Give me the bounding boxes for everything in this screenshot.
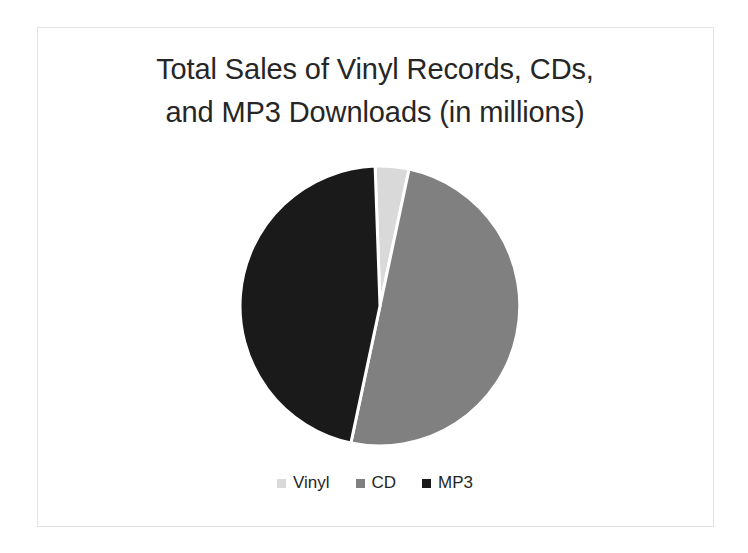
legend-swatch-mp3-icon — [422, 479, 431, 488]
slide-canvas: Total Sales of Vinyl Records, CDs, and M… — [0, 0, 748, 553]
legend-swatch-vinyl-icon — [277, 479, 286, 488]
pie-slice-mp3[interactable] — [240, 166, 380, 443]
legend-label-vinyl: Vinyl — [293, 473, 330, 493]
pie-slice-group — [240, 166, 520, 446]
pie-chart-plot-area — [225, 152, 535, 462]
chart-legend: Vinyl CD MP3 — [150, 473, 600, 493]
legend-label-mp3: MP3 — [438, 473, 473, 493]
legend-item-vinyl[interactable]: Vinyl — [277, 473, 330, 493]
legend-item-mp3[interactable]: MP3 — [422, 473, 473, 493]
pie-chart-svg — [225, 152, 535, 462]
chart-title: Total Sales of Vinyl Records, CDs, and M… — [60, 48, 690, 134]
legend-item-cd[interactable]: CD — [356, 473, 397, 493]
legend-label-cd: CD — [372, 473, 397, 493]
legend-swatch-cd-icon — [356, 479, 365, 488]
